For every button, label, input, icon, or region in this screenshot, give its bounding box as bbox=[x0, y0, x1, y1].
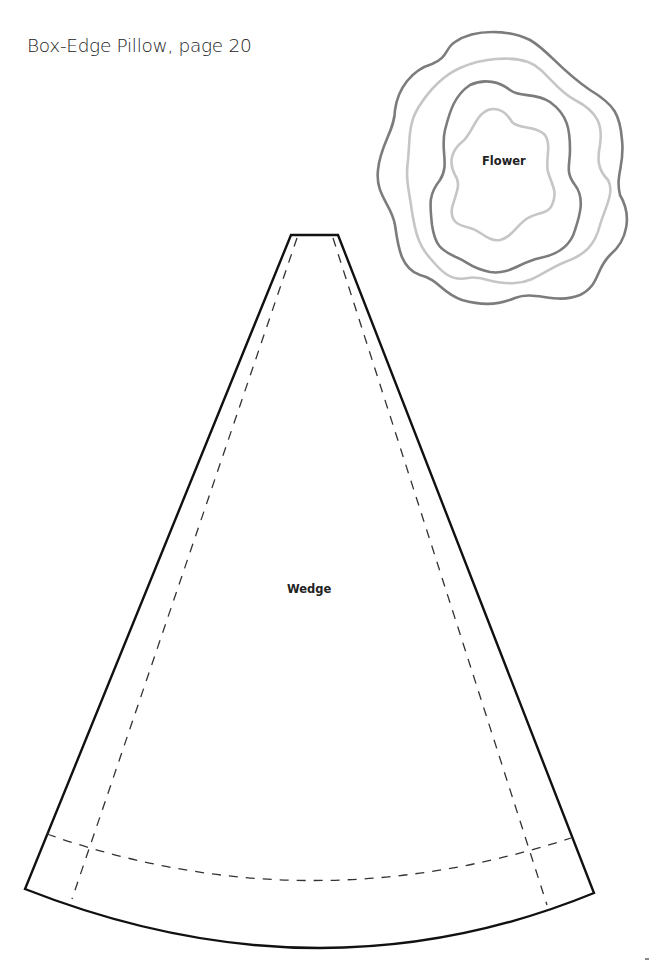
corner-mark bbox=[645, 958, 649, 960]
seam-right-diagonal bbox=[333, 238, 547, 905]
flower-outline-3 bbox=[430, 81, 580, 272]
flower-label: Flower bbox=[482, 154, 526, 168]
pattern-drawing bbox=[0, 0, 653, 969]
flower-outline-2 bbox=[407, 59, 610, 284]
seam-left-diagonal bbox=[72, 238, 297, 899]
flower-outline-4 bbox=[451, 109, 554, 240]
wedge-label: Wedge bbox=[287, 582, 331, 596]
wedge-seam-lines bbox=[47, 238, 571, 905]
seam-bottom-arc bbox=[47, 834, 571, 881]
